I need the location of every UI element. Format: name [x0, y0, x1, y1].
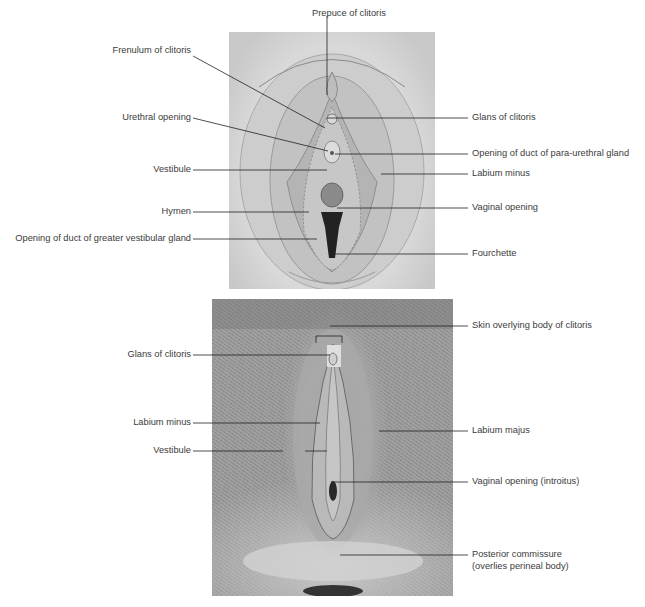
- photograph-panel: [212, 299, 453, 596]
- label-posterior-commissure: Posterior commissure: [472, 549, 562, 560]
- label-fourchette: Fourchette: [472, 248, 516, 259]
- vulva-photograph: [212, 299, 453, 596]
- label-urethral-opening: Urethral opening: [122, 112, 191, 123]
- label-labium-majus: Labium majus: [472, 425, 530, 436]
- label-posterior-commissure-note: (overlies perineal body): [472, 561, 569, 572]
- label-glans-of-clitoris-top: Glans of clitoris: [472, 112, 536, 123]
- label-hymen: Hymen: [162, 206, 191, 217]
- label-frenulum-of-clitoris: Frenulum of clitoris: [112, 45, 191, 56]
- label-vestibule-top: Vestibule: [153, 164, 191, 175]
- label-vestibule-bottom: Vestibule: [153, 445, 191, 456]
- label-prepuce-of-clitoris: Prepuce of clitoris: [312, 8, 386, 19]
- label-glans-of-clitoris-bottom: Glans of clitoris: [127, 349, 191, 360]
- label-vaginal-opening-top: Vaginal opening: [472, 202, 538, 213]
- label-labium-minus-bottom: Labium minus: [133, 417, 191, 428]
- label-labium-minus-top: Labium minus: [472, 168, 530, 179]
- label-opening-duct-greater-vestibular-gland: Opening of duct of greater vestibular gl…: [15, 233, 191, 244]
- illustration-panel: [229, 32, 435, 289]
- label-opening-duct-para-urethral-gland: Opening of duct of para-urethral gland: [472, 148, 629, 159]
- label-vaginal-opening-introitus: Vaginal opening (introitus): [472, 476, 579, 487]
- vulva-illustration: [229, 32, 435, 289]
- label-skin-overlying-body-of-clitoris: Skin overlying body of clitoris: [472, 320, 592, 331]
